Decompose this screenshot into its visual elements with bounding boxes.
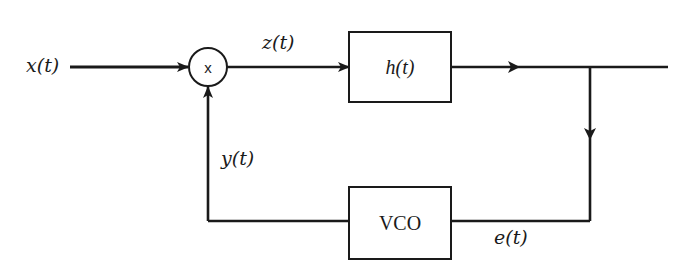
mixer-output-label: z(t): [262, 31, 294, 53]
vco-label: VCO: [349, 187, 451, 259]
error-signal-label: e(t): [494, 226, 528, 248]
filter-label: h(t): [349, 32, 451, 102]
input-signal-label: x(t): [26, 54, 59, 76]
multiplier-symbol: x: [189, 48, 227, 86]
pll-block-diagram: [0, 0, 696, 273]
vco-output-label: y(t): [221, 147, 254, 169]
